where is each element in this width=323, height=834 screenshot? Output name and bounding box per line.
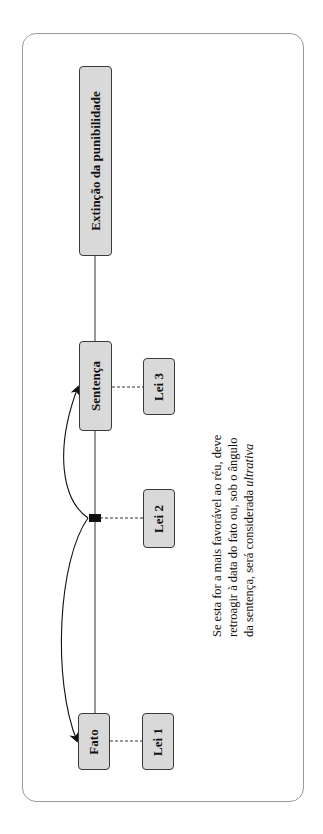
- node-lei-2: Lei 2: [143, 489, 175, 548]
- node-sentenca: Sentença: [79, 341, 112, 431]
- node-label: Lei 2: [151, 505, 167, 533]
- node-label: Fato: [86, 729, 102, 754]
- node-label: Extinção da punibilidade: [88, 91, 104, 230]
- arrow-to-fato: [61, 518, 88, 741]
- node-lei-1: Lei 1: [142, 713, 174, 770]
- junction-marker: [89, 514, 101, 522]
- annotation-note: Se esta for a mais favorável ao réu, dev…: [209, 427, 257, 637]
- node-extincao-punibilidade: Extinção da punibilidade: [79, 66, 112, 256]
- node-label: Lei 3: [151, 373, 167, 401]
- node-label: Lei 1: [150, 728, 166, 756]
- annotation-emphasis: ultrativa: [242, 444, 256, 487]
- node-fato: Fato: [78, 713, 110, 770]
- node-label: Sentença: [88, 361, 104, 411]
- node-lei-3: Lei 3: [143, 358, 175, 415]
- connector-lines: [0, 0, 323, 834]
